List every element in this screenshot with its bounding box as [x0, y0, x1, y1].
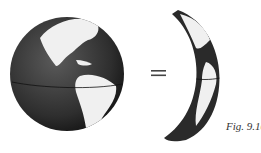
globe-icon	[10, 17, 124, 131]
figure-canvas	[0, 0, 261, 153]
figure-caption: Fig. 9.10	[226, 120, 261, 132]
lune-icon	[164, 10, 220, 141]
equals-icon	[151, 70, 166, 76]
